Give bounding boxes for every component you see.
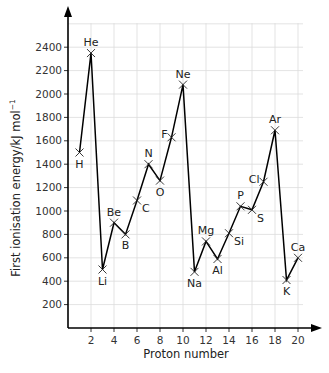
point-label: Be xyxy=(107,206,122,219)
point-label: K xyxy=(283,285,291,298)
x-axis-title: Proton number xyxy=(143,347,229,361)
data-series: HHeLiBeBCNOFNeNaMgAlSiPSClArKCa xyxy=(75,36,305,298)
y-axis-title-text: First ionisation energy/kJ mol xyxy=(9,110,23,276)
point-label: He xyxy=(83,36,98,49)
y-tick-label: 2200 xyxy=(35,64,62,76)
y-axis-title: First ionisation energy/kJ mol−1 xyxy=(8,99,23,277)
point-label: Ne xyxy=(176,68,191,81)
data-point: Ar xyxy=(269,113,282,134)
y-axis-title-superscript: −1 xyxy=(8,99,17,110)
point-label: Si xyxy=(234,235,244,248)
point-label: B xyxy=(122,239,130,252)
x-tick-label: 12 xyxy=(199,334,212,346)
point-label: Ca xyxy=(291,241,305,254)
data-point: O xyxy=(156,177,165,199)
y-tick-label: 600 xyxy=(42,251,62,263)
x-tick-label: 2 xyxy=(88,334,95,346)
x-tick-label: 10 xyxy=(176,334,189,346)
data-point: S xyxy=(248,206,264,225)
x-tick-label: 20 xyxy=(291,334,304,346)
point-label: Al xyxy=(212,264,223,277)
data-point: Si xyxy=(225,229,244,248)
y-axis-arrow-icon xyxy=(64,6,72,17)
y-tick-label: 1400 xyxy=(35,158,62,170)
x-axis-arrow-icon xyxy=(311,324,322,332)
x-tick-label: 4 xyxy=(111,334,118,346)
point-label: Mg xyxy=(198,224,214,237)
point-label: P xyxy=(237,189,244,202)
y-tick-label: 1000 xyxy=(35,205,62,217)
y-tick-label: 2400 xyxy=(35,41,62,53)
point-label: O xyxy=(156,186,165,199)
point-label: S xyxy=(257,212,264,225)
ionisation-energy-chart: 2468101214161820200400600800100012001400… xyxy=(0,0,329,373)
y-tick-label: 200 xyxy=(42,298,62,310)
y-tick-label: 1200 xyxy=(35,181,62,193)
series-line xyxy=(80,53,299,280)
point-label: Cl xyxy=(249,173,260,186)
point-label: Na xyxy=(187,277,202,290)
y-tick-label: 2000 xyxy=(35,88,62,100)
axis-ticks: 2468101214161820200400600800100012001400… xyxy=(35,41,304,346)
y-tick-label: 1800 xyxy=(35,111,62,123)
point-label: H xyxy=(75,158,83,171)
point-label: F xyxy=(161,128,167,141)
x-tick-label: 18 xyxy=(268,334,281,346)
point-label: Li xyxy=(98,275,107,288)
point-label: C xyxy=(142,202,150,215)
point-label: N xyxy=(144,147,152,160)
data-point: K xyxy=(283,276,291,298)
x-tick-label: 14 xyxy=(222,334,236,346)
y-tick-label: 400 xyxy=(42,275,62,287)
point-label: Ar xyxy=(269,113,282,126)
y-tick-label: 1600 xyxy=(35,134,62,146)
y-tick-label: 800 xyxy=(42,228,62,240)
x-tick-label: 6 xyxy=(134,334,141,346)
x-tick-label: 16 xyxy=(245,334,259,346)
x-tick-label: 8 xyxy=(157,334,164,346)
